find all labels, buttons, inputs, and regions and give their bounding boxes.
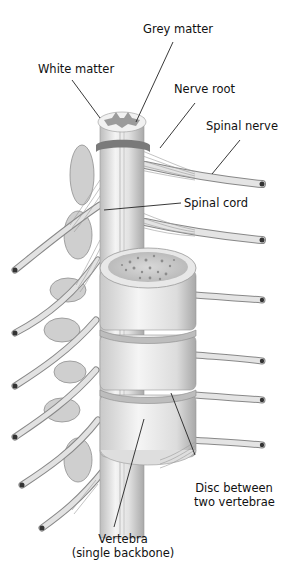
label-disc-line2: two vertebrae (194, 495, 274, 509)
label-white-matter: White matter (38, 62, 114, 76)
left-nerve-ends (13, 268, 45, 531)
vertebral-bodies (100, 248, 196, 465)
right-nerve-ends (260, 182, 265, 448)
label-vertebra-line2: (single backbone) (70, 546, 176, 560)
label-disc-line1: Disc between (194, 481, 274, 495)
label-nerve-root: Nerve root (174, 82, 235, 96)
label-vertebra-line1: Vertebra (70, 532, 176, 546)
label-spinal-nerve: Spinal nerve (206, 119, 278, 133)
label-vertebra: Vertebra (single backbone) (70, 532, 176, 560)
spine-diagram: Grey matter White matter Nerve root Spin… (0, 0, 282, 566)
label-grey-matter: Grey matter (143, 22, 213, 36)
label-spinal-cord: Spinal cord (184, 196, 248, 210)
label-disc: Disc between two vertebrae (194, 481, 274, 509)
